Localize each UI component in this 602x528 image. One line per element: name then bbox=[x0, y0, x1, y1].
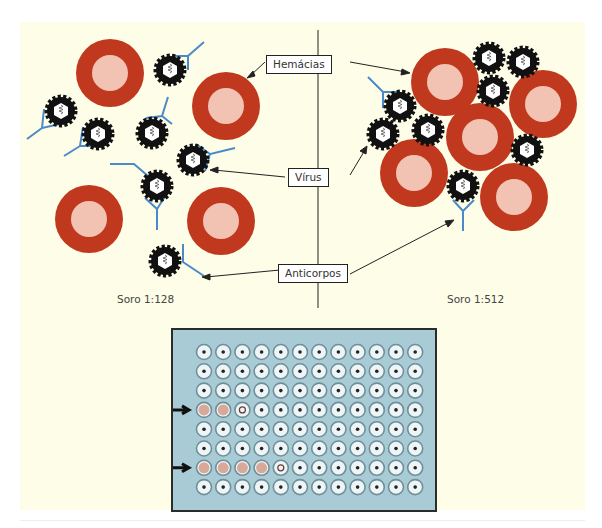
caption-right-serum: Soro 1:512 bbox=[447, 293, 504, 305]
microtiter-plate bbox=[171, 328, 437, 512]
plate-well bbox=[312, 383, 327, 398]
label-hemacias: Hemácias bbox=[266, 55, 332, 74]
plate-well bbox=[408, 460, 423, 475]
plate-well bbox=[216, 402, 231, 417]
plate-well bbox=[293, 345, 308, 360]
plate-well bbox=[254, 402, 269, 417]
virus-icon bbox=[151, 247, 179, 275]
plate-well bbox=[369, 422, 384, 437]
plate-well bbox=[369, 441, 384, 456]
plate-well bbox=[389, 345, 404, 360]
plate-well bbox=[312, 460, 327, 475]
plate-well bbox=[369, 460, 384, 475]
virus-icon bbox=[138, 119, 166, 147]
plate-well bbox=[389, 402, 404, 417]
plate-well bbox=[254, 422, 269, 437]
plate-well bbox=[273, 480, 288, 495]
plate-well bbox=[254, 441, 269, 456]
plate-well bbox=[369, 364, 384, 379]
plate-well bbox=[216, 345, 231, 360]
plate-well bbox=[254, 383, 269, 398]
plate-well bbox=[312, 441, 327, 456]
plate-well bbox=[350, 345, 365, 360]
plate-well bbox=[254, 364, 269, 379]
plate-well bbox=[389, 364, 404, 379]
plate-well bbox=[331, 480, 346, 495]
plate-well bbox=[389, 460, 404, 475]
plate-well bbox=[197, 480, 212, 495]
plate-well bbox=[350, 383, 365, 398]
plate-well bbox=[369, 402, 384, 417]
plate-well bbox=[389, 441, 404, 456]
rbc bbox=[192, 72, 260, 140]
plate-well bbox=[216, 422, 231, 437]
virus-icon bbox=[414, 116, 442, 144]
plate-well bbox=[312, 480, 327, 495]
virus-icon bbox=[47, 97, 75, 125]
plate-well bbox=[235, 383, 250, 398]
plate-well bbox=[273, 441, 288, 456]
plate-well bbox=[408, 383, 423, 398]
plate-well bbox=[350, 441, 365, 456]
plate-well bbox=[408, 364, 423, 379]
plate-well bbox=[254, 345, 269, 360]
label-anticorpos: Anticorpos bbox=[278, 264, 348, 283]
plate-well bbox=[235, 345, 250, 360]
virus-icon bbox=[509, 48, 537, 76]
right-panel-cells bbox=[380, 48, 577, 231]
rbc bbox=[55, 185, 123, 253]
plate-well bbox=[293, 460, 308, 475]
plate-well bbox=[408, 422, 423, 437]
plate-well bbox=[197, 383, 212, 398]
plate-well bbox=[293, 480, 308, 495]
plate-well bbox=[389, 480, 404, 495]
plate-well bbox=[254, 480, 269, 495]
plate-well bbox=[235, 422, 250, 437]
plate-well bbox=[235, 364, 250, 379]
label-virus: Vírus bbox=[288, 168, 329, 187]
plate-well bbox=[197, 460, 212, 475]
plate-well bbox=[197, 364, 212, 379]
plate-well bbox=[331, 364, 346, 379]
plate-well bbox=[197, 402, 212, 417]
plate-well bbox=[350, 364, 365, 379]
plate-well bbox=[408, 402, 423, 417]
rbc bbox=[446, 103, 514, 171]
plate-well bbox=[197, 345, 212, 360]
virus-icon bbox=[475, 44, 503, 72]
plate-well bbox=[408, 441, 423, 456]
plate-well bbox=[350, 460, 365, 475]
virus-icon bbox=[156, 56, 184, 84]
plate-well bbox=[293, 422, 308, 437]
virus-icon bbox=[479, 77, 507, 105]
plate-well bbox=[312, 345, 327, 360]
plate-well bbox=[408, 480, 423, 495]
plate-well bbox=[331, 441, 346, 456]
plate-well bbox=[254, 460, 269, 475]
plate-well bbox=[408, 345, 423, 360]
plate-well bbox=[216, 480, 231, 495]
rbc bbox=[509, 70, 577, 138]
virus-icon bbox=[386, 92, 414, 120]
plate-wells bbox=[173, 330, 435, 510]
plate-well bbox=[312, 422, 327, 437]
plate-well bbox=[273, 460, 288, 475]
plate-well bbox=[216, 441, 231, 456]
virus-icon bbox=[369, 120, 397, 148]
caption-left-serum: Soro 1:128 bbox=[117, 293, 174, 305]
plate-well bbox=[216, 460, 231, 475]
plate-well bbox=[312, 364, 327, 379]
plate-well bbox=[369, 345, 384, 360]
row-marker-arrow-icon bbox=[173, 464, 189, 472]
plate-well bbox=[273, 364, 288, 379]
plate-well bbox=[331, 460, 346, 475]
plate-well bbox=[216, 364, 231, 379]
plate-well bbox=[273, 422, 288, 437]
plate-well bbox=[197, 422, 212, 437]
plate-well bbox=[235, 480, 250, 495]
rbc bbox=[76, 39, 144, 107]
virus-icon bbox=[84, 120, 112, 148]
plate-well bbox=[389, 422, 404, 437]
plate-well bbox=[331, 345, 346, 360]
rbc bbox=[187, 187, 255, 255]
